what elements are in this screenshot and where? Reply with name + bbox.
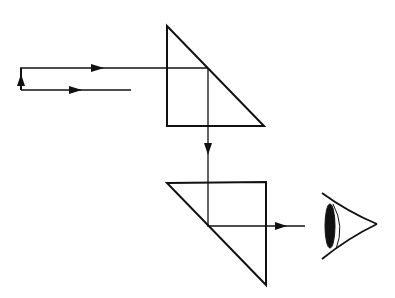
arrow-down-icon [204, 143, 212, 155]
upper-prism [167, 26, 264, 126]
arrow-right-icon [69, 86, 82, 94]
arrow-up-icon [17, 74, 25, 86]
lower-prism [167, 182, 266, 285]
prism-diagram [0, 0, 395, 298]
eye-icon [322, 193, 377, 259]
diagram-canvas [0, 0, 395, 298]
arrow-right-icon [91, 64, 104, 72]
arrow-right-icon [275, 222, 287, 230]
